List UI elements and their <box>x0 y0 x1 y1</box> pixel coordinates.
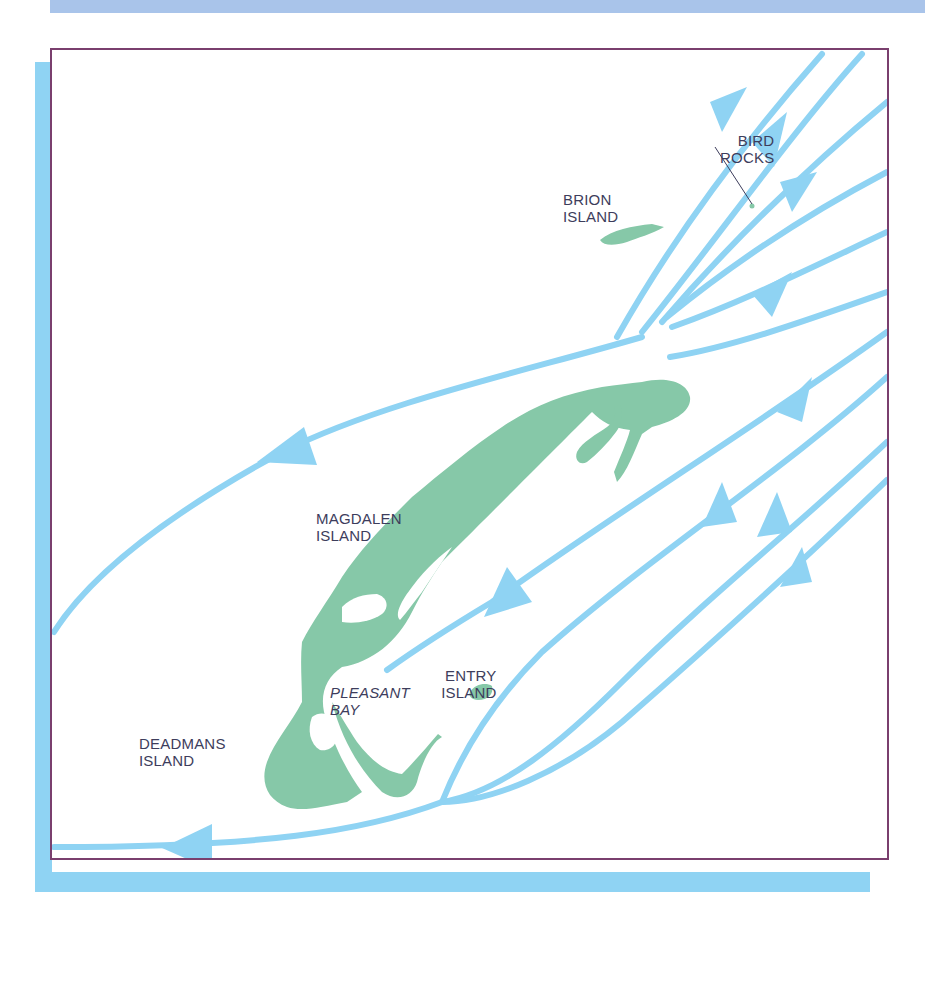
top-color-band <box>50 0 925 13</box>
label-line: PLEASANT <box>330 684 410 701</box>
arrowhead-icon <box>484 567 532 617</box>
current-line <box>442 442 887 802</box>
label-line: ROCKS <box>720 149 774 166</box>
label-line: DEADMANS <box>139 735 226 752</box>
brion-island-label: BRION ISLAND <box>563 191 618 225</box>
bird-rocks-label: BIRD ROCKS <box>720 132 774 166</box>
frame-shadow-bottom <box>35 872 870 892</box>
brion-island-shape <box>600 224 664 245</box>
deadmans-island-label: DEADMANS ISLAND <box>139 735 226 769</box>
current-line <box>54 802 442 847</box>
arrowhead-icon <box>162 824 212 858</box>
label-line: MAGDALEN <box>316 510 402 527</box>
current-line <box>642 54 862 332</box>
map-frame: BIRD ROCKS BRION ISLAND MAGDALEN ISLAND … <box>50 48 889 860</box>
arrowhead-icon <box>777 377 812 422</box>
label-line: ISLAND <box>139 752 226 769</box>
arrowhead-icon <box>710 87 747 132</box>
bird-rocks-shape <box>750 204 755 209</box>
islands <box>264 204 754 810</box>
entry-island-label: ENTRY ISLAND <box>437 667 497 701</box>
arrowhead-icon <box>752 272 792 317</box>
label-line: BRION <box>563 191 618 208</box>
magdalen-island-label: MAGDALEN ISLAND <box>316 510 402 544</box>
arrowhead-icon <box>757 492 792 537</box>
label-line: BAY <box>330 701 410 718</box>
label-line: ISLAND <box>316 527 402 544</box>
label-line: BIRD <box>720 132 774 149</box>
label-line: ISLAND <box>437 684 497 701</box>
label-line: ENTRY <box>437 667 497 684</box>
arrowhead-icon <box>257 427 317 465</box>
pleasant-bay-label: PLEASANT BAY <box>330 684 410 718</box>
label-line: ISLAND <box>563 208 618 225</box>
arrowhead-icon <box>780 172 817 212</box>
